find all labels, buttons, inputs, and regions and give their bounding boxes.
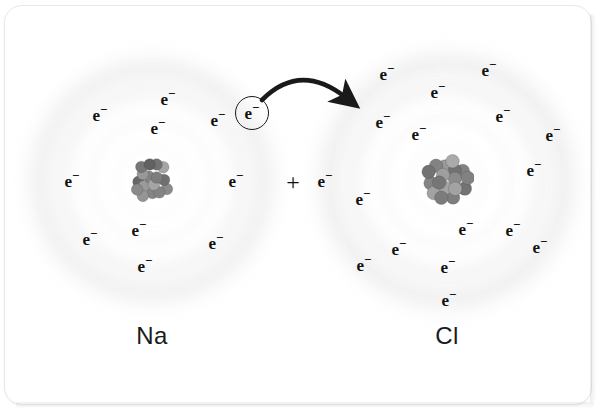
electron-label: e−: [412, 126, 427, 143]
electron-label: e−: [211, 112, 226, 129]
atom-caption-sodium: Na: [136, 322, 168, 350]
electron-label: e−: [376, 114, 391, 131]
electron-label: e−: [245, 105, 260, 122]
electron-label: e−: [546, 127, 561, 144]
electron-label: e−: [527, 162, 542, 179]
electron-label: e−: [392, 241, 407, 258]
electron-label: e−: [318, 173, 333, 190]
electron-label: e−: [209, 235, 224, 252]
figure-canvas: + e−e−e−e−e−e−e−e−e−e−e−Nae−e−e−e−e−e−e−…: [0, 0, 603, 418]
electron-label: e−: [459, 221, 474, 238]
electron-label: e−: [506, 222, 521, 239]
nucleus-sodium: [129, 158, 175, 204]
electron-label: e−: [441, 259, 456, 276]
electron-label: e−: [229, 173, 244, 190]
electron-label: e−: [380, 66, 395, 83]
electron-label: e−: [65, 173, 80, 190]
electron-label: e−: [482, 62, 497, 79]
electron-label: e−: [132, 222, 147, 239]
nucleus-chlorine: [420, 154, 474, 208]
electron-label: e−: [356, 191, 371, 208]
electron-label: e−: [138, 258, 153, 275]
plus-sign: +: [286, 169, 300, 196]
electron-label: e−: [83, 231, 98, 248]
electron-label: e−: [431, 84, 446, 101]
electron-label: e−: [533, 239, 548, 256]
electron-label: e−: [93, 107, 108, 124]
electron-label: e−: [357, 257, 372, 274]
electron-label: e−: [442, 292, 457, 309]
atom-caption-chlorine: Cl: [435, 322, 459, 350]
panel-shadow-bottom: [16, 402, 594, 409]
electron-label: e−: [161, 91, 176, 108]
electron-label: e−: [496, 108, 511, 125]
panel-shadow-right: [590, 14, 597, 402]
electron-label: e−: [151, 120, 166, 137]
